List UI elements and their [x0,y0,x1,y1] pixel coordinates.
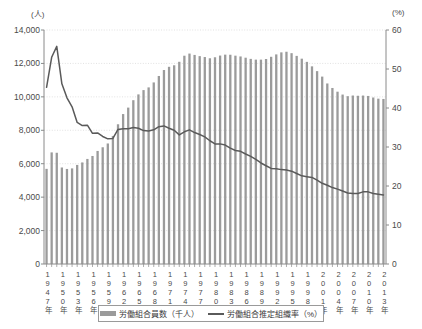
bar [127,108,129,264]
bar [275,54,277,264]
right-axis-tick-label: 10 [392,220,420,230]
bar [107,143,109,264]
bar [219,56,221,264]
bar [347,96,349,264]
bar [214,57,216,264]
x-axis-tick-label: 1956年 [88,270,97,314]
bar [255,60,257,264]
bar [301,59,303,264]
left-axis-tick-label: 8,000 [0,125,40,135]
chart-legend: 労働組合員数（千人） 労働組合推定組織率（%） [98,305,324,322]
bar [311,66,313,264]
bar [158,76,160,264]
right-axis-tick-label: 50 [392,64,420,74]
line-series-swatch-icon [208,313,224,315]
bar [173,65,175,264]
bar [178,62,180,264]
bar [45,169,47,264]
bar [372,98,374,264]
bar [193,55,195,264]
bar [51,152,53,264]
bar [367,96,369,264]
bar [66,169,68,264]
bar-series-swatch-icon [100,311,116,316]
x-axis-tick-label: 2010年 [364,270,373,314]
bar [362,96,364,264]
bar [336,92,338,264]
bar [229,55,231,264]
right-axis-tick-label: 0 [392,259,420,269]
x-axis-tick-label: 1953年 [73,270,82,314]
bar [331,88,333,264]
bar [321,77,323,264]
right-axis-tick-label: 60 [392,25,420,35]
chart-container: (人) (%) 14,00012,00010,0008,0006,0004,00… [0,0,422,329]
bar [86,159,88,264]
left-axis-tick-label: 0 [0,259,40,269]
legend-label-bar: 労働組合員数（千人） [119,308,199,319]
bar [71,168,73,264]
legend-item-line: 労働組合推定組織率（%） [208,308,322,319]
bar [183,56,185,264]
x-axis-tick-label: 1947年 [42,270,51,314]
bar [122,114,124,264]
bar [280,52,282,264]
bar [316,71,318,264]
bar [188,54,190,264]
bar [382,99,384,264]
bar [147,87,149,264]
bar [168,67,170,264]
bar [250,59,252,264]
legend-item-bar: 労働組合員数（千人） [100,308,199,319]
left-axis-tick-label: 10,000 [0,92,40,102]
bar [326,83,328,264]
bar [142,90,144,264]
x-axis-tick-label: 2004年 [333,270,342,314]
bar [61,167,63,264]
left-axis-tick-label: 6,000 [0,159,40,169]
bar [234,56,236,264]
bar [96,151,98,264]
bar [239,56,241,264]
x-axis-tick-label: 2007年 [348,270,357,314]
bar [102,147,104,264]
bar [112,136,114,264]
left-axis-tick-label: 4,000 [0,192,40,202]
bar [117,124,119,264]
bar [56,153,58,264]
right-axis-tick-label: 30 [392,142,420,152]
bar [290,53,292,264]
bar [285,52,287,264]
bar [352,96,354,264]
bar [265,59,267,264]
right-axis-tick-label: 20 [392,181,420,191]
bar [163,70,165,264]
x-axis-tick-label: 2013年 [379,270,388,314]
bar [209,58,211,264]
bar [132,100,134,264]
bar [137,94,139,264]
bar [244,58,246,264]
bar [199,56,201,264]
left-axis-tick-label: 14,000 [0,25,40,35]
right-axis-tick-label: 40 [392,103,420,113]
bar [81,162,83,264]
bar [357,96,359,264]
bar [296,56,298,264]
bar [91,156,93,264]
bar [306,62,308,264]
left-axis-tick-label: 12,000 [0,58,40,68]
bar [341,95,343,264]
left-axis-tick-label: 2,000 [0,226,40,236]
bar [76,165,78,264]
x-axis-tick-label: 1950年 [57,270,66,314]
bar [204,57,206,264]
bar [224,55,226,264]
legend-label-line: 労働組合推定組織率（%） [227,308,322,319]
bar [153,82,155,264]
bar [377,99,379,264]
bar [270,57,272,264]
